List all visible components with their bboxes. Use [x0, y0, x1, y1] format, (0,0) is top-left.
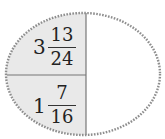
ellipse-diagram	[0, 0, 165, 139]
whole-number: 3	[33, 37, 46, 57]
numerator: 13	[48, 26, 76, 44]
fraction-top-left: 3 13 24	[30, 24, 80, 70]
whole-number: 1	[33, 96, 46, 116]
fraction-bottom-left: 1 7 16	[30, 83, 80, 129]
numerator: 7	[48, 84, 76, 102]
denominator: 24	[48, 50, 76, 68]
denominator: 16	[48, 108, 76, 126]
